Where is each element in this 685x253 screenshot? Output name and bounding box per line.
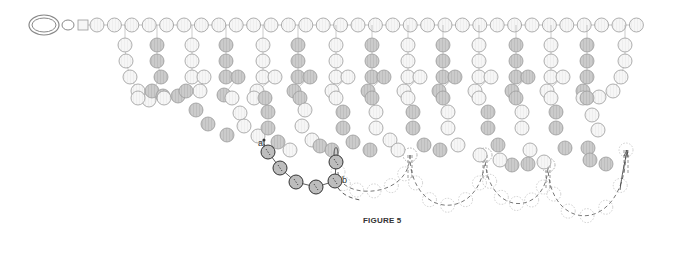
white-bead bbox=[560, 18, 574, 32]
white-bead bbox=[556, 70, 570, 84]
gray-bead bbox=[365, 38, 379, 52]
gray-bead bbox=[521, 157, 535, 171]
white-bead bbox=[544, 91, 558, 105]
white-bead bbox=[455, 18, 469, 32]
gray-bead bbox=[150, 38, 164, 52]
white-bead bbox=[413, 70, 427, 84]
white-bead bbox=[316, 18, 330, 32]
white-bead bbox=[256, 38, 270, 52]
gray-bead bbox=[599, 157, 613, 171]
white-bead bbox=[295, 119, 309, 133]
gray-bead bbox=[201, 117, 215, 131]
label-b: b bbox=[342, 175, 347, 185]
gray-bead bbox=[448, 70, 462, 84]
white-bead bbox=[283, 143, 297, 157]
white-bead bbox=[595, 18, 609, 32]
gray-bead bbox=[558, 141, 572, 155]
white-bead bbox=[472, 38, 486, 52]
white-bead bbox=[157, 91, 171, 105]
white-bead bbox=[614, 70, 628, 84]
gray-bead bbox=[363, 143, 377, 157]
ghost-bead bbox=[459, 193, 473, 207]
figure-caption: FIGURE 5 bbox=[363, 216, 402, 225]
gray-bead bbox=[580, 54, 594, 68]
gray-bead bbox=[436, 38, 450, 52]
white-bead bbox=[484, 70, 498, 84]
clasp bbox=[29, 15, 88, 35]
white-bead bbox=[329, 54, 343, 68]
white-bead bbox=[90, 18, 104, 32]
white-bead bbox=[329, 91, 343, 105]
gray-bead bbox=[521, 70, 535, 84]
gray-bead bbox=[580, 70, 594, 84]
white-bead bbox=[299, 18, 313, 32]
white-bead bbox=[401, 54, 415, 68]
gray-bead bbox=[336, 121, 350, 135]
white-bead bbox=[119, 54, 133, 68]
gray-bead bbox=[346, 135, 360, 149]
gray-bead bbox=[291, 38, 305, 52]
white-bead bbox=[401, 91, 415, 105]
white-bead bbox=[473, 18, 487, 32]
gray-bead bbox=[261, 105, 275, 119]
white-bead bbox=[386, 18, 400, 32]
gray-bead bbox=[436, 91, 450, 105]
white-bead bbox=[197, 70, 211, 84]
gray-bead bbox=[406, 121, 420, 135]
white-bead bbox=[351, 18, 365, 32]
gray-bead bbox=[336, 105, 350, 119]
white-bead bbox=[515, 121, 529, 135]
white-bead bbox=[193, 84, 207, 98]
white-bead bbox=[256, 54, 270, 68]
gray-bead bbox=[365, 54, 379, 68]
white-bead bbox=[421, 18, 435, 32]
white-bead bbox=[142, 18, 156, 32]
white-bead bbox=[490, 18, 504, 32]
white-bead bbox=[131, 91, 145, 105]
gray-bead bbox=[220, 128, 234, 142]
ghost-bead bbox=[536, 180, 550, 194]
gray-bead bbox=[549, 105, 563, 119]
white-bead bbox=[401, 38, 415, 52]
white-bead bbox=[493, 153, 507, 167]
white-bead bbox=[212, 18, 226, 32]
gray-bead bbox=[303, 70, 317, 84]
white-bead bbox=[268, 70, 282, 84]
gray-bead bbox=[436, 54, 450, 68]
ghost-bead bbox=[483, 174, 497, 188]
white-bead bbox=[472, 54, 486, 68]
white-bead bbox=[177, 18, 191, 32]
gray-bead bbox=[583, 153, 597, 167]
white-bead bbox=[194, 18, 208, 32]
ghost-bead bbox=[494, 190, 508, 204]
gray-bead bbox=[258, 91, 272, 105]
white-bead bbox=[281, 18, 295, 32]
gray-bead bbox=[150, 54, 164, 68]
white-bead bbox=[618, 54, 632, 68]
white-bead bbox=[508, 18, 522, 32]
white-bead bbox=[329, 38, 343, 52]
white-bead bbox=[606, 84, 620, 98]
beading-diagram bbox=[0, 0, 685, 253]
gray-bead bbox=[291, 54, 305, 68]
white-bead bbox=[125, 18, 139, 32]
white-bead bbox=[537, 155, 551, 169]
white-bead bbox=[391, 143, 405, 157]
white-bead bbox=[585, 108, 599, 122]
white-bead bbox=[515, 105, 529, 119]
gray-bead bbox=[481, 105, 495, 119]
white-bead bbox=[438, 18, 452, 32]
gray-bead bbox=[580, 91, 594, 105]
white-bead bbox=[473, 148, 487, 162]
gray-bead bbox=[406, 105, 420, 119]
white-bead bbox=[441, 105, 455, 119]
top-row-beads bbox=[88, 18, 643, 32]
white-bead bbox=[451, 138, 465, 152]
gray-bead bbox=[433, 143, 447, 157]
crimp-bead-icon bbox=[78, 20, 88, 30]
gray-bead bbox=[365, 91, 379, 105]
gray-bead bbox=[580, 38, 594, 52]
white-bead bbox=[118, 38, 132, 52]
white-bead bbox=[523, 143, 537, 157]
white-bead bbox=[403, 18, 417, 32]
